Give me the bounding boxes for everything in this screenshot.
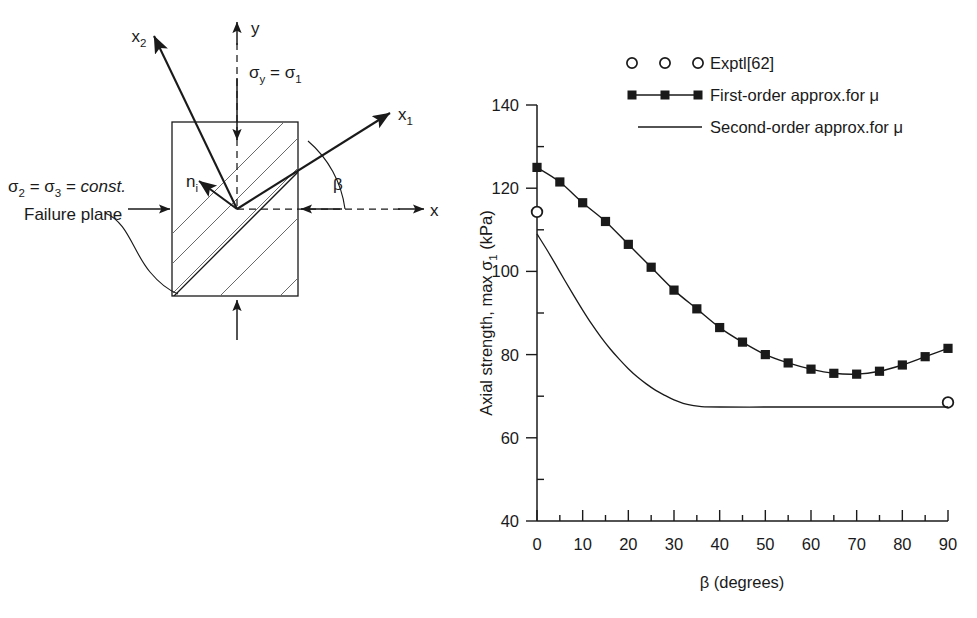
data-point-filled-square: [624, 240, 633, 249]
failure-plane-leader: [105, 213, 178, 294]
x-tick-label: 90: [939, 535, 957, 553]
data-point-filled-square: [829, 369, 838, 378]
chart-y-axis-title: Axial strength, max σ1 (kPa): [477, 210, 499, 416]
data-point-filled-square: [601, 217, 610, 226]
x-tick-label: 0: [532, 535, 541, 553]
y-tick-label: 120: [491, 179, 519, 197]
legend-label-second-order: Second-order approx.for μ: [710, 118, 903, 136]
data-point-filled-square: [738, 338, 747, 347]
legend-entry-exptl: Exptl[62]: [627, 54, 774, 72]
x-tick-label: 10: [573, 535, 591, 553]
data-point-open-circle: [532, 207, 543, 218]
y-tick-label: 80: [501, 346, 519, 364]
x-tick-label: 20: [619, 535, 637, 553]
legend-open-circle-marker: [693, 58, 703, 68]
data-point-filled-square: [943, 344, 952, 353]
series-line-second-order: [537, 234, 948, 407]
chart-series: [532, 163, 954, 408]
data-point-filled-square: [852, 370, 861, 379]
series-open-circle: [532, 207, 954, 408]
label-x1: x1: [398, 105, 413, 127]
data-point-filled-square: [875, 367, 884, 376]
data-point-filled-square: [669, 286, 678, 295]
label-sigma-2-sigma-3-const: σ2 = σ3 = const.: [8, 177, 126, 199]
label-sigma-y-equals-sigma-1: σy = σ1: [249, 63, 302, 85]
chart-ticks: [526, 105, 948, 521]
legend-entry-second-order: Second-order approx.for μ: [638, 118, 903, 136]
y-tick-label: 140: [491, 96, 519, 114]
label-x-axis: x: [430, 201, 439, 220]
series-filled-square: [532, 163, 952, 379]
data-point-filled-square: [898, 360, 907, 369]
data-point-filled-square: [806, 365, 815, 374]
legend-entry-first-order: First-order approx.for μ: [628, 86, 880, 104]
x-tick-label: 40: [710, 535, 728, 553]
x-tick-label: 30: [665, 535, 683, 553]
data-point-filled-square: [692, 304, 701, 313]
data-point-filled-square: [921, 352, 930, 361]
x-tick-label: 80: [893, 535, 911, 553]
x-tick-label: 60: [802, 535, 820, 553]
data-point-filled-square: [647, 263, 656, 272]
legend-label-first-order: First-order approx.for μ: [710, 86, 879, 104]
data-point-filled-square: [532, 163, 541, 172]
legend-label-exptl: Exptl[62]: [710, 54, 774, 72]
data-point-filled-square: [555, 177, 564, 186]
y-tick-label: 100: [491, 262, 519, 280]
legend-filled-square-marker: [628, 91, 637, 100]
label-y-axis: y: [251, 19, 260, 38]
label-beta: β: [333, 175, 343, 194]
legend-filled-square-marker: [694, 91, 703, 100]
y-tick-label: 60: [501, 429, 519, 447]
axial-strength-chart: 0102030405060708090406080100120140 β (de…: [470, 0, 977, 618]
figure-root: x2 x1 y x σy = σ1 σ2 = σ3 = const. ni β …: [0, 0, 977, 618]
x-tick-label: 70: [847, 535, 865, 553]
data-point-open-circle: [943, 397, 954, 408]
y-tick-label: 40: [501, 512, 519, 530]
data-point-filled-square: [578, 198, 587, 207]
data-point-filled-square: [761, 350, 770, 359]
x-tick-label: 50: [756, 535, 774, 553]
label-failure-plane: Failure plane: [24, 205, 122, 224]
chart-legend: Exptl[62] First-order approx.for μ Secon…: [627, 54, 903, 136]
legend-open-circle-marker: [660, 58, 670, 68]
series-none: [537, 234, 948, 407]
legend-filled-square-marker: [661, 91, 670, 100]
data-point-filled-square: [784, 358, 793, 367]
stress-element-diagram: x2 x1 y x σy = σ1 σ2 = σ3 = const. ni β …: [0, 0, 470, 618]
chart-tick-labels: 0102030405060708090406080100120140: [491, 96, 957, 553]
label-x2: x2: [132, 27, 147, 49]
legend-open-circle-marker: [627, 58, 637, 68]
data-point-filled-square: [715, 323, 724, 332]
chart-x-axis-title: β (degrees): [700, 573, 785, 591]
